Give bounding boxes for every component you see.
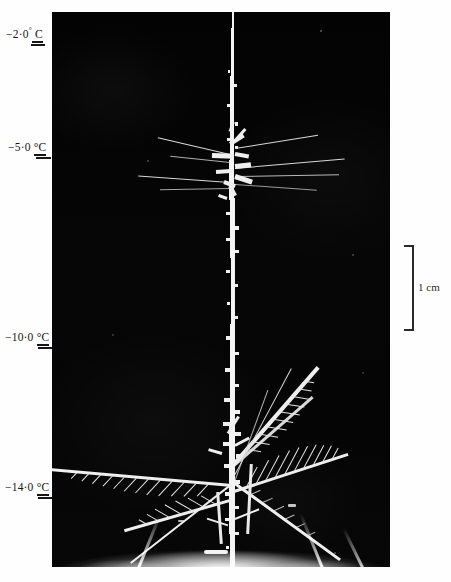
scale-bar-vertical-line	[412, 245, 414, 331]
temp-unit-4: °C	[37, 481, 50, 496]
temp-unit-1: C	[32, 28, 43, 43]
temp-label-minus-14-text: −14·0	[5, 481, 34, 493]
temp-unit-3: °C	[37, 331, 50, 346]
temp-unit-2: °C	[34, 141, 47, 156]
temp-tick-minus-2	[31, 44, 45, 46]
temp-label-minus-2-text: −2·0	[6, 28, 29, 40]
temp-label-minus-5: −5·0 °C	[8, 141, 46, 153]
temp-tick-minus-10	[38, 347, 53, 349]
scale-bar: 1 cm	[404, 245, 446, 337]
scale-bar-bottom-tick	[404, 329, 414, 331]
figure-page: −2·0° C −5·0 °C −10·0 °C −14·0 °C	[0, 0, 451, 582]
substrate-marker-dash	[204, 550, 228, 554]
crystal-photograph	[52, 12, 390, 567]
temp-tick-minus-14	[38, 497, 53, 499]
glow-streak-far-right	[342, 528, 364, 567]
temp-tick-minus-5	[36, 157, 51, 159]
temp-label-minus-2: −2·0° C	[6, 26, 43, 40]
temp-label-minus-14: −14·0 °C	[5, 481, 49, 493]
temp-label-minus-10: −10·0 °C	[5, 331, 49, 343]
scale-bar-label: 1 cm	[418, 281, 440, 293]
scale-bar-top-tick	[404, 245, 414, 247]
temp-label-minus-5-text: −5·0	[8, 141, 31, 153]
temp-label-minus-10-text: −10·0	[5, 331, 34, 343]
